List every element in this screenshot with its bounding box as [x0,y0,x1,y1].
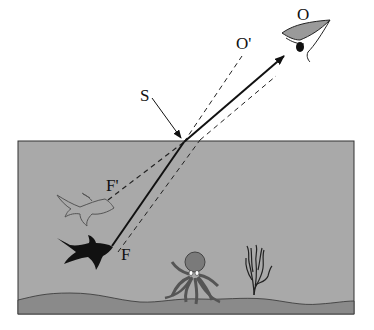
label-apparent-fish: F' [106,177,119,194]
refraction-diagram: O O' S F' F [0,0,374,330]
parallel-dashed-ray-upper [200,76,276,140]
label-fish: F [121,246,130,263]
refracted-ray-air [184,56,284,142]
label-observer: O [297,6,309,23]
eye-icon [282,20,330,62]
label-surface-point: S [140,87,149,104]
s-pointer-arrow [152,98,181,138]
label-apparent-observer: O' [236,35,251,52]
